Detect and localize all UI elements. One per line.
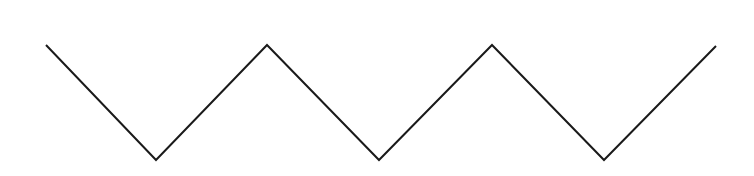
zigzag-canvas <box>0 0 754 176</box>
zigzag-figure <box>0 0 754 176</box>
zigzag-line <box>46 45 716 160</box>
